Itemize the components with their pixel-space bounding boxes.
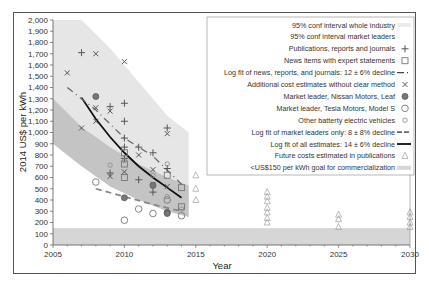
circle-marker bbox=[93, 179, 100, 186]
x-axis-label: Year bbox=[212, 260, 231, 271]
y-tick-label: 1,300 bbox=[28, 95, 49, 104]
y-tick-label: 300 bbox=[35, 207, 49, 216]
y-tick-label: 100 bbox=[35, 230, 49, 239]
x-tick-label: 2020 bbox=[258, 250, 276, 259]
legend-label: 95% conf interval market leaders bbox=[290, 32, 395, 41]
filled-circle-marker bbox=[93, 94, 99, 100]
y-tick-label: 2,000 bbox=[28, 16, 49, 25]
circle-marker bbox=[150, 210, 157, 217]
legend-label: Publications, reports and journals bbox=[289, 44, 396, 53]
x-tick-label: 2010 bbox=[116, 250, 134, 259]
y-tick-label: 1,100 bbox=[28, 117, 49, 126]
y-tick-label: 0 bbox=[44, 241, 49, 250]
y-tick-label: 1,500 bbox=[28, 72, 49, 81]
y-tick-label: 1,000 bbox=[28, 128, 49, 137]
circle-marker bbox=[135, 206, 142, 213]
goal-band-rect bbox=[53, 228, 410, 245]
y-tick-label: 1,400 bbox=[28, 83, 49, 92]
legend-swatch bbox=[397, 166, 411, 170]
y-tick-label: 1,900 bbox=[28, 27, 49, 36]
y-tick-label: 200 bbox=[35, 218, 49, 227]
legend-label: News items with expert statements bbox=[284, 56, 395, 65]
y-tick-label: 500 bbox=[35, 185, 49, 194]
circle-marker bbox=[121, 217, 128, 224]
y-tick-label: 1,800 bbox=[28, 38, 49, 47]
legend: 95% conf interval whole industry95% conf… bbox=[207, 17, 414, 175]
y-tick-label: 1,700 bbox=[28, 50, 49, 59]
legend-label: Market leader, Nissan Motors, Leaf bbox=[284, 92, 395, 101]
triangle-marker bbox=[336, 216, 342, 222]
triangle-marker bbox=[193, 197, 199, 203]
legend-label: Log fit of news, reports, and journals: … bbox=[224, 68, 395, 77]
filled-circle-marker bbox=[164, 211, 170, 217]
legend-label: Log fit of market leaders only: 8 ± 8% d… bbox=[252, 128, 395, 137]
commercialization-goal-band bbox=[53, 228, 410, 245]
x-marker bbox=[122, 59, 127, 64]
triangle-marker bbox=[264, 219, 270, 225]
triangle-marker bbox=[193, 172, 199, 178]
y-tick-label: 800 bbox=[35, 151, 49, 160]
triangle-marker bbox=[264, 198, 270, 204]
y-tick-label: 1,200 bbox=[28, 106, 49, 115]
legend-label: Log fit of all estimates: 14 ± 6% declin… bbox=[270, 140, 395, 149]
legend-label: <US$150 per kWh goal for commercializati… bbox=[251, 163, 395, 172]
y-tick-label: 1,600 bbox=[28, 61, 49, 70]
x-tick-label: 2030 bbox=[401, 250, 419, 259]
legend-label: Other batterty electric vehicles bbox=[298, 116, 395, 125]
x-tick-label: 2005 bbox=[44, 250, 62, 259]
battery-cost-chart: 01002003004005006007008009001,0001,1001,… bbox=[0, 0, 429, 282]
x-tick-label: 2025 bbox=[330, 250, 348, 259]
y-axis-label: 2014 US$ per kWh bbox=[17, 92, 28, 172]
y-tick-label: 700 bbox=[35, 162, 49, 171]
filled-circle-marker bbox=[402, 93, 408, 99]
filled-circle-marker bbox=[121, 195, 127, 201]
legend-label: Future costs estimated in publications bbox=[275, 151, 396, 160]
legend-label: Additional cost estimates without clear … bbox=[247, 80, 395, 89]
filled-circle-marker bbox=[150, 182, 156, 188]
legend-label: Market leader, Tesla Motors, Model S bbox=[276, 104, 395, 113]
x-tick-label: 2015 bbox=[187, 250, 205, 259]
legend-swatch bbox=[397, 23, 411, 27]
legend-label: 95% conf interval whole industry bbox=[292, 21, 395, 30]
y-tick-label: 600 bbox=[35, 173, 49, 182]
y-tick-label: 900 bbox=[35, 140, 49, 149]
triangle-marker bbox=[193, 185, 199, 191]
y-tick-label: 400 bbox=[35, 196, 49, 205]
